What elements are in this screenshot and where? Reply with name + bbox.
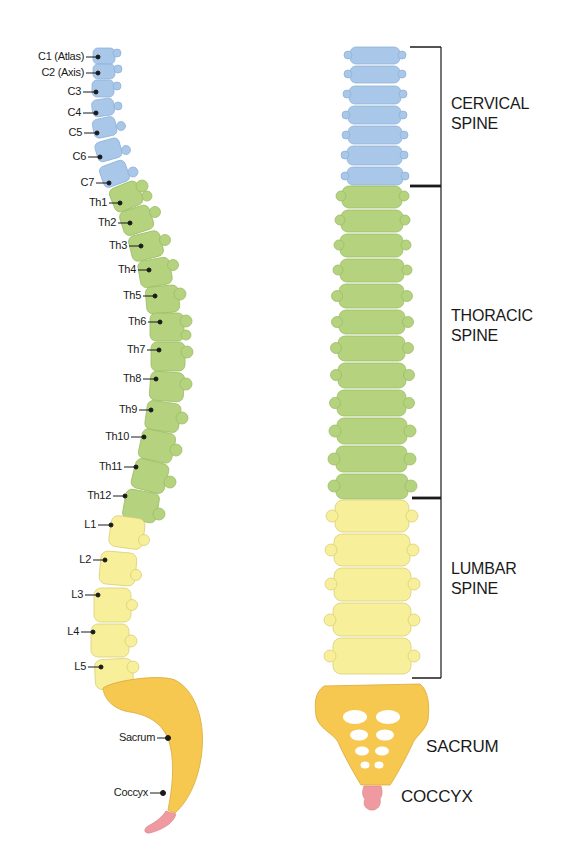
region-label-line2: SPINE — [451, 326, 533, 346]
label-l1: L1 — [84, 518, 96, 530]
label-th1: Th1 — [89, 196, 107, 208]
label-th2: Th2 — [98, 216, 116, 228]
label-c2: C2 (Axis) — [41, 66, 84, 78]
label-c5: C5 — [69, 126, 82, 138]
region-label-lumbar: LUMBAR SPINE — [451, 559, 516, 599]
coccyx-side — [145, 811, 176, 833]
region-label-line1: LUMBAR — [451, 559, 516, 579]
cervical-vertebrae-front — [341, 47, 409, 185]
label-l2: L2 — [79, 553, 91, 565]
label-coccyx: Coccyx — [114, 786, 148, 798]
label-th8: Th8 — [123, 372, 141, 384]
cervical-vertebrae-side — [91, 48, 138, 189]
label-th9: Th9 — [119, 403, 137, 415]
thoracic-vertebrae-side — [108, 179, 193, 523]
label-c1: C1 (Atlas) — [38, 50, 84, 62]
label-c7: C7 — [81, 176, 94, 188]
label-th12: Th12 — [87, 489, 111, 501]
label-th11: Th11 — [99, 460, 122, 472]
front-view-spine — [315, 47, 441, 810]
label-c4: C4 — [68, 106, 81, 118]
label-sacrum: Sacrum — [119, 731, 155, 743]
lumbar-vertebrae-front — [324, 500, 420, 674]
coccyx-front-label: COCCYX — [401, 787, 473, 807]
region-label-line2: SPINE — [451, 579, 516, 599]
region-label-thoracic: THORACIC SPINE — [451, 306, 533, 346]
side-view-spine — [81, 48, 203, 833]
coccyx-front — [363, 786, 382, 810]
lumbar-vertebrae-side — [91, 515, 150, 690]
label-th7: Th7 — [127, 343, 145, 355]
label-l3: L3 — [71, 588, 83, 600]
region-label-line1: THORACIC — [451, 306, 533, 326]
label-th6: Th6 — [128, 315, 146, 327]
sacrum-front — [315, 684, 428, 785]
region-label-line2: SPINE — [451, 114, 529, 134]
thoracic-vertebrae-front — [328, 186, 417, 499]
label-th4: Th4 — [118, 263, 136, 275]
region-label-cervical: CERVICAL SPINE — [451, 94, 529, 134]
label-c6: C6 — [73, 150, 86, 162]
label-l5: L5 — [74, 660, 86, 672]
label-th10: Th10 — [105, 430, 129, 442]
label-th3: Th3 — [109, 239, 127, 251]
region-label-line1: CERVICAL — [451, 94, 529, 114]
sacrum-front-label: SACRUM — [426, 737, 498, 757]
label-l4: L4 — [67, 625, 79, 637]
label-th5: Th5 — [123, 289, 141, 301]
label-c3: C3 — [68, 85, 81, 97]
